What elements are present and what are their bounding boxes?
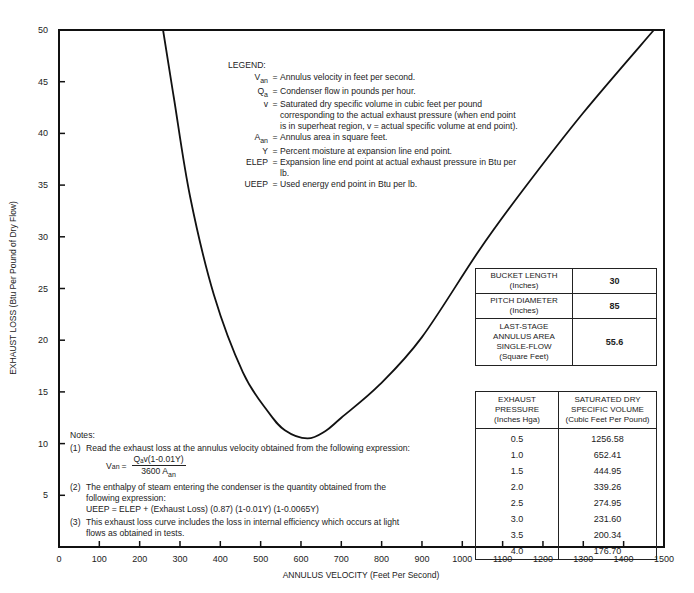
legend-definition: Condenser flow in pounds per hour. (280, 86, 520, 100)
x-tick-label: 1000 (452, 554, 472, 564)
specific-volume-cell: 339.26 (559, 479, 657, 495)
legend-item: v=Saturated dry specific volume in cubic… (228, 99, 520, 132)
y-axis-ticks: 5101520253035404550 (38, 25, 65, 500)
legend-definition: Used energy end point in Btu per lb. (280, 179, 520, 190)
specific-volume-cell: 444.95 (559, 463, 657, 479)
pressure-cell: 0.5 (476, 429, 559, 448)
y-tick-label: 35 (38, 180, 48, 190)
specific-volume-cell: 231.60 (559, 511, 657, 527)
x-tick-label: 400 (213, 554, 228, 564)
pressure-cell: 4.0 (476, 543, 559, 560)
note-3: (3) This exhaust loss curve includes the… (70, 517, 410, 539)
table-row: LAST-STAGE ANNULUS AREA SINGLE-FLOW(Squa… (476, 319, 657, 366)
legend-item: Van=Annulus velocity in feet per second. (228, 72, 520, 86)
velocity-formula: Van = Qₐv(1-0.01Y) 3600 Aan (106, 454, 410, 480)
y-tick-label: 45 (38, 77, 48, 87)
pressure-volume-table: EXHAUSTPRESSURE(Inches Hga) SATURATED DR… (475, 391, 657, 560)
note-2: (2) The enthalpy of steam entering the c… (70, 482, 410, 515)
x-tick-label: 800 (374, 554, 389, 564)
spec-label: PITCH DIAMETER(Inches) (476, 294, 573, 319)
y-tick-label: 25 (38, 284, 48, 294)
spec-value: 55.6 (573, 319, 657, 366)
spec-value: 85 (573, 294, 657, 319)
legend-definition: Annulus area in square feet. (280, 132, 520, 146)
specific-volume-cell: 274.95 (559, 495, 657, 511)
legend-item: Aan=Annulus area in square feet. (228, 132, 520, 146)
pressure-cell: 1.5 (476, 463, 559, 479)
header-exhaust-pressure: EXHAUSTPRESSURE(Inches Hga) (476, 392, 559, 429)
legend: LEGEND: Van=Annulus velocity in feet per… (228, 60, 520, 190)
y-tick-label: 50 (38, 25, 48, 35)
formula-fraction: Qₐv(1-0.01Y) 3600 Aan (132, 454, 186, 480)
legend-definition: Expansion line end point at actual exhau… (280, 157, 520, 179)
x-tick-label: 700 (334, 554, 349, 564)
y-tick-label: 15 (38, 387, 48, 397)
y-axis-label: EXHAUST LOSS (Btu Per Pound of Dry Flow) (8, 201, 18, 375)
note-number: (1) (70, 443, 86, 480)
x-tick-label: 200 (132, 554, 147, 564)
legend-definition: Annulus velocity in feet per second. (280, 72, 520, 86)
y-tick-label: 5 (43, 490, 48, 500)
y-tick-label: 20 (38, 335, 48, 345)
formula-lhs-sub: an (112, 461, 120, 472)
header-specific-volume: SATURATED DRYSPECIFIC VOLUME(Cubic Feet … (559, 392, 657, 429)
legend-symbol: ELEP (228, 157, 270, 179)
formula-denominator: 3600 A (141, 466, 168, 476)
legend-item: UEEP=Used energy end point in Btu per lb… (228, 179, 520, 190)
legend-symbol: v (228, 99, 270, 132)
x-axis-label: ANNULUS VELOCITY (Feet Per Second) (283, 570, 440, 580)
legend-symbol: Van (228, 72, 270, 86)
table-header-row: EXHAUSTPRESSURE(Inches Hga) SATURATED DR… (476, 392, 657, 429)
note-text: The enthalpy of steam entering the conde… (86, 482, 410, 504)
table-row: 3.0231.60 (476, 511, 657, 527)
x-tick-label: 500 (253, 554, 268, 564)
note-number: (3) (70, 517, 86, 539)
table-row: 2.0339.26 (476, 479, 657, 495)
x-tick-label: 0 (56, 554, 61, 564)
legend-item: Y=Percent moisture at expansion line end… (228, 146, 520, 157)
specific-volume-cell: 652.41 (559, 447, 657, 463)
legend-symbol: Qa (228, 86, 270, 100)
note-1: (1) Read the exhaust loss at the annulus… (70, 443, 410, 480)
formula-numerator: Qₐv(1-0.01Y) (132, 454, 186, 466)
y-tick-label: 30 (38, 232, 48, 242)
legend-item: Qa=Condenser flow in pounds per hour. (228, 86, 520, 100)
note-text: Read the exhaust loss at the annulus vel… (86, 443, 410, 454)
x-tick-label: 100 (92, 554, 107, 564)
specific-volume-cell: 176.70 (559, 543, 657, 560)
table-row: 4.0176.70 (476, 543, 657, 560)
x-tick-label: 600 (293, 554, 308, 564)
table-row: BUCKET LENGTH(Inches) 30 (476, 269, 657, 294)
legend-symbol: UEEP (228, 179, 270, 190)
legend-definition: Percent moisture at expansion line end p… (280, 146, 520, 157)
x-tick-label: 900 (414, 554, 429, 564)
table-row: 3.5200.34 (476, 527, 657, 543)
formula-den-sub: an (168, 471, 176, 478)
note-text: This exhaust loss curve includes the los… (86, 517, 410, 539)
specific-volume-cell: 1256.58 (559, 429, 657, 448)
table-row: 1.0652.41 (476, 447, 657, 463)
pressure-cell: 3.0 (476, 511, 559, 527)
notes: Notes: (1) Read the exhaust loss at the … (70, 430, 410, 539)
note-number: (2) (70, 482, 86, 515)
table-row: 1.5444.95 (476, 463, 657, 479)
pressure-cell: 1.0 (476, 447, 559, 463)
legend-title: LEGEND: (228, 60, 520, 71)
y-tick-label: 40 (38, 128, 48, 138)
specific-volume-cell: 200.34 (559, 527, 657, 543)
ueep-expression: UEEP = ELEP + (Exhaust Loss) (0.87) (1-0… (86, 504, 410, 515)
pressure-cell: 3.5 (476, 527, 559, 543)
y-tick-label: 10 (38, 439, 48, 449)
spec-label: LAST-STAGE ANNULUS AREA SINGLE-FLOW(Squa… (476, 319, 573, 366)
table-row: PITCH DIAMETER(Inches) 85 (476, 294, 657, 319)
x-tick-label: 300 (172, 554, 187, 564)
table-row: 2.5274.95 (476, 495, 657, 511)
pressure-cell: 2.5 (476, 495, 559, 511)
turbine-spec-table: BUCKET LENGTH(Inches) 30 PITCH DIAMETER(… (475, 268, 657, 366)
notes-title: Notes: (70, 430, 410, 441)
legend-item: ELEP=Expansion line end point at actual … (228, 157, 520, 179)
spec-label: BUCKET LENGTH(Inches) (476, 269, 573, 294)
table-row: 0.51256.58 (476, 429, 657, 448)
legend-definition: Saturated dry specific volume in cubic f… (280, 99, 520, 132)
legend-symbol: Y (228, 146, 270, 157)
